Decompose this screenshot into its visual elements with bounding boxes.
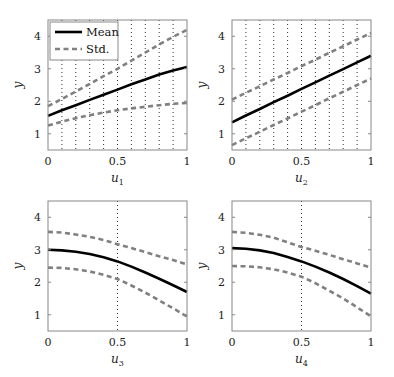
legend-std-label: Std. (86, 42, 110, 56)
y-tick-label: 4 (34, 211, 41, 224)
mean-line (232, 248, 371, 294)
y-tick-label: 2 (34, 95, 41, 108)
figure-canvas: 123400.51u1yMeanStd.123400.51u2y123400.5… (0, 0, 394, 377)
x-tick-label: 1 (368, 155, 375, 168)
x-tick-label: 0.5 (109, 155, 127, 168)
y-tick-label: 3 (218, 63, 225, 76)
y-tick-label: 1 (34, 128, 41, 141)
x-tick-label: 1 (184, 155, 191, 168)
legend: MeanStd. (50, 22, 119, 60)
y-tick-label: 3 (34, 63, 41, 76)
x-tick-label: 0 (45, 336, 52, 349)
y-tick-label: 1 (218, 309, 225, 322)
std-line (48, 103, 187, 126)
y-tick-label: 1 (218, 128, 225, 141)
legend-mean-label: Mean (86, 25, 119, 39)
x-tick-label: 0 (229, 155, 236, 168)
y-tick-label: 1 (34, 309, 41, 322)
y-tick-label: 3 (34, 244, 41, 257)
x-axis-label: u2 (295, 171, 308, 187)
x-tick-label: 0 (229, 336, 236, 349)
y-tick-label: 2 (218, 95, 225, 108)
x-axis-label: u3 (111, 352, 124, 368)
x-axis-label: u4 (295, 352, 308, 368)
std-line (48, 232, 187, 265)
y-tick-label: 2 (34, 276, 41, 289)
y-tick-label: 4 (218, 211, 225, 224)
x-tick-label: 0.5 (293, 336, 311, 349)
x-tick-label: 0 (45, 155, 52, 168)
x-axis-label: u1 (111, 171, 124, 187)
x-tick-label: 1 (184, 336, 191, 349)
y-tick-label: 3 (218, 244, 225, 257)
y-axis-label: y (11, 81, 25, 89)
x-tick-label: 1 (368, 336, 375, 349)
y-axis-label: y (195, 262, 209, 270)
y-tick-label: 4 (218, 30, 225, 43)
subplot-2: 123400.51u2y (195, 20, 375, 187)
subplot-1: 123400.51u1yMeanStd. (11, 20, 191, 187)
y-tick-label: 4 (34, 30, 41, 43)
y-tick-label: 2 (218, 276, 225, 289)
y-axis-label: y (195, 81, 209, 89)
subplot-4: 123400.51u4y (195, 201, 375, 368)
x-tick-label: 0.5 (109, 336, 127, 349)
x-tick-label: 0.5 (293, 155, 311, 168)
y-axis-label: y (11, 262, 25, 270)
subplot-3: 123400.51u3y (11, 201, 191, 368)
